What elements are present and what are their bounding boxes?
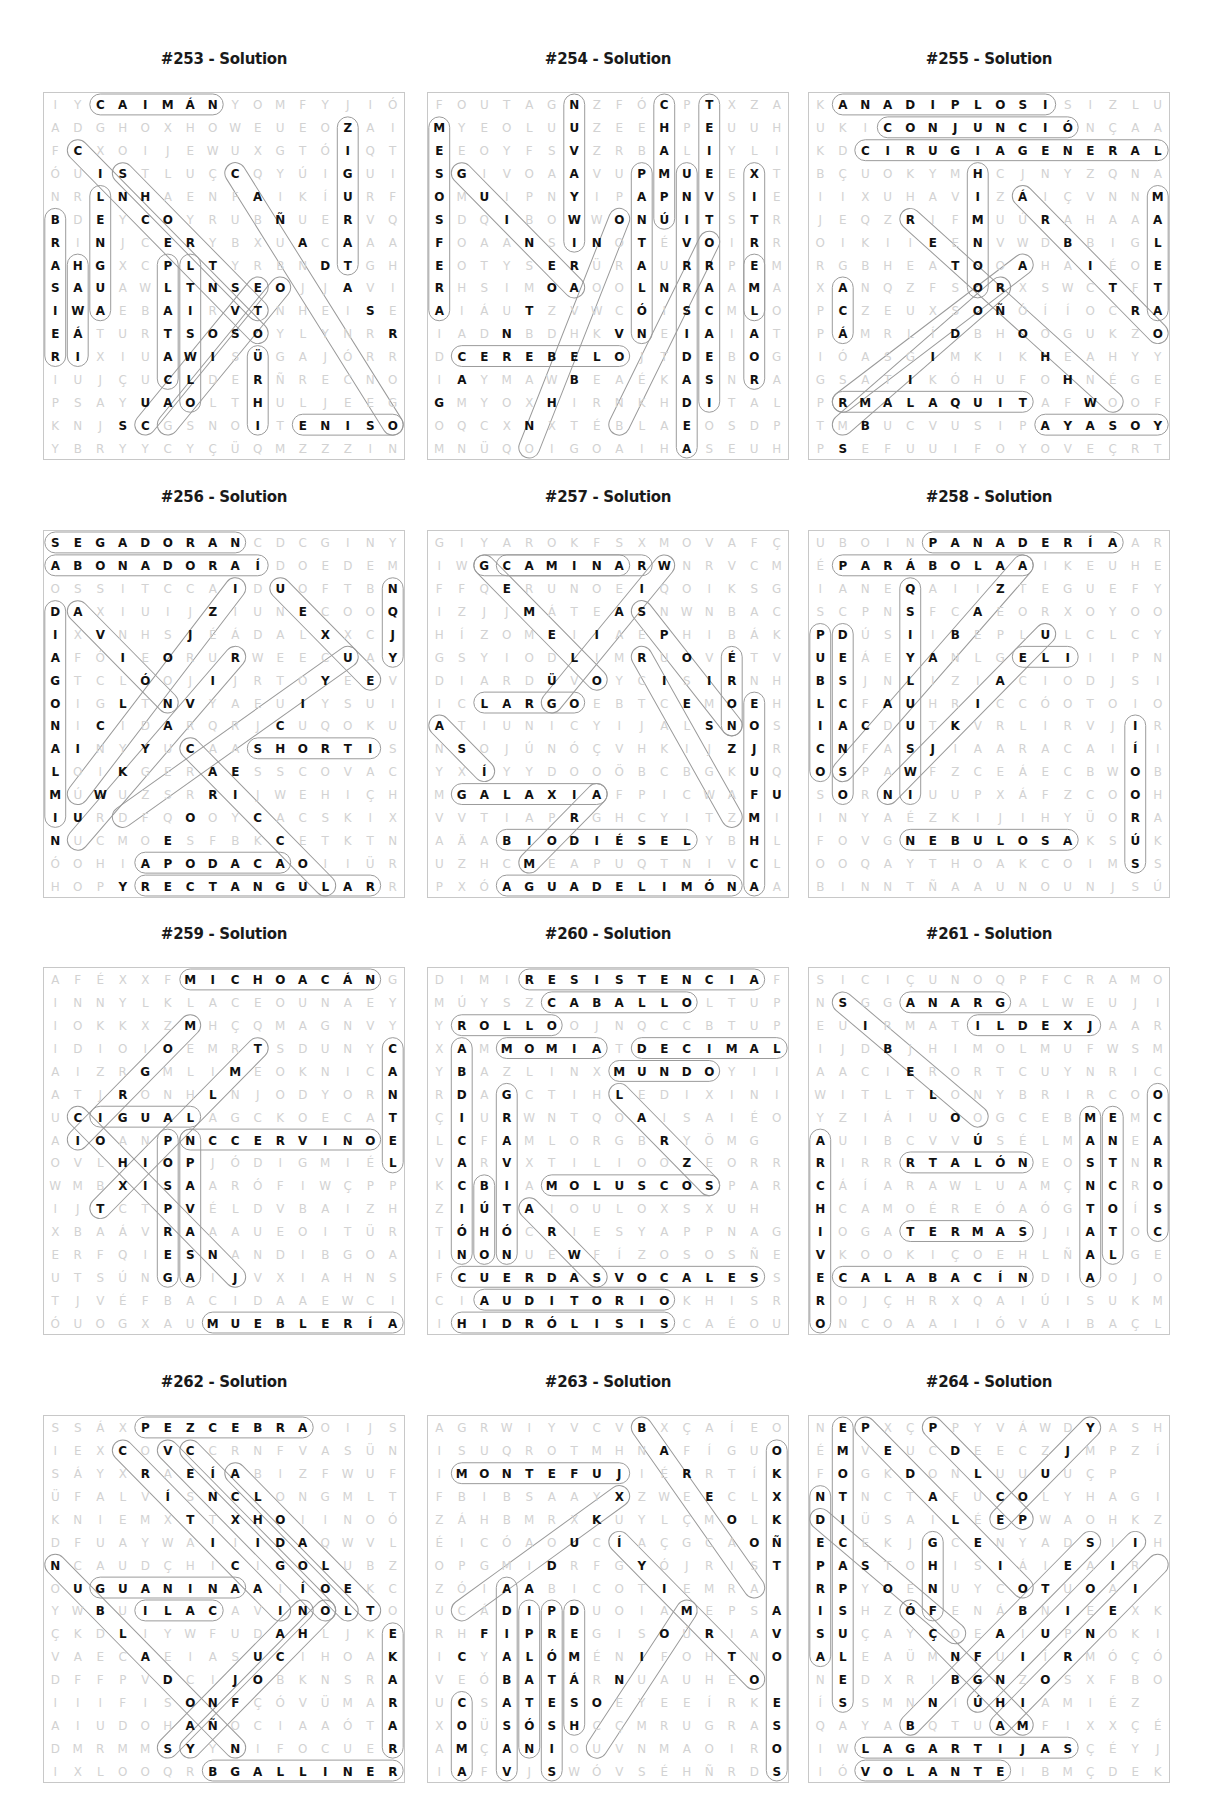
solution-letter: N (50, 1559, 60, 1573)
filler-letter: U (838, 1019, 847, 1033)
solution-letter: Y (1085, 1421, 1095, 1435)
filler-letter: N (615, 1019, 624, 1033)
solution-letter: U (502, 1294, 512, 1308)
solution-letter: I (662, 880, 666, 894)
filler-letter: R (231, 719, 239, 733)
solution-letter: T (705, 98, 714, 112)
filler-letter: O (570, 1742, 579, 1756)
solution-letter: A (682, 373, 692, 387)
filler-letter: R (480, 1421, 488, 1435)
solution-letter: E (570, 1627, 578, 1641)
filler-letter: I (1066, 1225, 1070, 1239)
filler-letter: W (1039, 1421, 1051, 1435)
filler-letter: E (615, 582, 623, 596)
filler-letter: O (388, 1604, 397, 1618)
solution-letter: R (186, 236, 195, 250)
filler-letter: H (141, 628, 150, 642)
solution-letter: R (253, 373, 262, 387)
filler-letter: U (750, 442, 759, 456)
filler-letter: O (1108, 1271, 1117, 1285)
filler-letter: Ó (570, 741, 579, 756)
filler-letter: H (682, 628, 691, 642)
solution-letter: H (547, 396, 557, 410)
solution-letter: T (525, 1696, 534, 1710)
filler-letter: S (186, 419, 194, 433)
filler-letter: É (906, 810, 914, 825)
solution-letter: Í (256, 558, 261, 573)
solution-letter: H (995, 1696, 1005, 1710)
filler-letter: E (683, 1490, 691, 1504)
solution-letter: D (547, 1271, 557, 1285)
filler-letter: Z (299, 442, 307, 456)
filler-letter: G (838, 259, 847, 273)
filler-letter: S (164, 1696, 172, 1710)
solution-letter: E (1041, 144, 1049, 158)
solution-letter: A (231, 857, 241, 871)
solution-letter: H (118, 1156, 128, 1170)
filler-letter: J (840, 1042, 845, 1056)
filler-letter: M (704, 1582, 714, 1596)
filler-letter: D (253, 628, 262, 642)
solution-letter: C (816, 1179, 825, 1193)
filler-letter: O (435, 419, 444, 433)
filler-letter: Y (1063, 811, 1072, 825)
filler-letter: Ñ (705, 1764, 714, 1779)
filler-letter: S (773, 719, 781, 733)
filler-letter: C (299, 536, 307, 550)
solution-letter: M (658, 167, 670, 181)
filler-letter: V (299, 1444, 308, 1458)
solution-letter: U (479, 190, 489, 204)
solution-letter: J (1087, 1019, 1092, 1033)
filler-letter: C (996, 697, 1004, 711)
filler-letter: I (707, 582, 711, 596)
filler-letter: H (772, 121, 781, 135)
filler-letter: L (526, 121, 533, 135)
filler-letter: C (1086, 628, 1094, 642)
solution-letter: T (548, 1673, 557, 1687)
filler-letter: H (861, 1604, 870, 1618)
filler-letter: A (1154, 167, 1163, 181)
filler-letter: W (342, 1294, 354, 1308)
filler-letter: G (615, 1559, 624, 1573)
filler-letter: N (861, 582, 870, 596)
filler-letter: I (1156, 996, 1160, 1010)
filler-letter: F (436, 582, 443, 596)
solution-letter: A (231, 1467, 241, 1481)
filler-letter: H (1131, 559, 1140, 573)
filler-letter: M (659, 536, 669, 550)
filler-letter: A (74, 1650, 83, 1664)
solution-letter: A (502, 1134, 512, 1148)
filler-letter: I (818, 582, 822, 596)
grid-canvas: SEGADORANCDCGINYABONADORAÍDOEDEMOSSITCCA… (44, 531, 404, 897)
filler-letter: U (883, 190, 892, 204)
filler-letter: E (344, 396, 352, 410)
solution-letter: N (905, 834, 915, 848)
solution-letter: G (905, 1742, 915, 1756)
filler-letter: O (1108, 788, 1117, 802)
solution-letter: O (592, 674, 602, 688)
solution-letter: Z (727, 742, 736, 756)
filler-letter: O (298, 1111, 307, 1125)
filler-letter: K (366, 719, 375, 733)
filler-letter: Ó (996, 1201, 1005, 1216)
solution-letter: D (1018, 1019, 1028, 1033)
filler-letter: I (346, 857, 350, 871)
filler-letter: S (186, 834, 194, 848)
solution-letter: F (570, 1467, 578, 1481)
solution-letter: M (546, 1179, 558, 1193)
filler-letter: I (121, 719, 125, 733)
solution-letter: V (298, 1134, 308, 1148)
filler-letter: Z (299, 1467, 307, 1481)
filler-letter: I (818, 350, 822, 364)
solution-letter: I (818, 719, 822, 733)
solution-letter: S (1018, 1225, 1027, 1239)
filler-letter: S (728, 419, 736, 433)
filler-letter: L (773, 834, 780, 848)
filler-letter: A (884, 811, 893, 825)
filler-letter: U (51, 1111, 60, 1125)
filler-letter: D (276, 559, 285, 573)
solution-letter: A (1153, 1134, 1163, 1148)
solution-letter: N (928, 1696, 938, 1710)
filler-letter: A (321, 1202, 330, 1216)
filler-letter: O (208, 811, 217, 825)
